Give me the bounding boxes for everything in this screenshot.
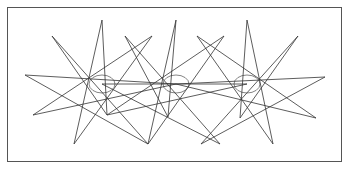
- star-line-figure: [0, 0, 350, 170]
- interlaced-stars: [25, 20, 325, 144]
- star-1: [25, 20, 176, 144]
- star-3: [176, 20, 325, 144]
